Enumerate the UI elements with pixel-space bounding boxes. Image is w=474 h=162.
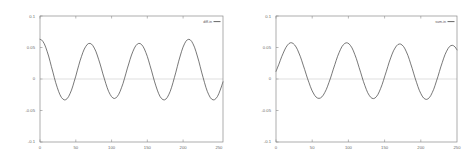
y-tick-label: 0 <box>33 76 36 81</box>
y-tick-label: -0.1 <box>28 139 36 144</box>
x-tick-label: 0 <box>39 145 42 150</box>
y-tick-label: 0.1 <box>265 14 271 19</box>
chart-svg-right: 0.1 0.05 0 -0.05 -0.1 0 50 100 150 200 2… <box>237 0 474 162</box>
data-curve <box>276 43 457 100</box>
x-tick-label: 100 <box>108 145 116 150</box>
data-curve <box>40 39 223 100</box>
chart-panel-right: 0.1 0.05 0 -0.05 -0.1 0 50 100 150 200 2… <box>237 0 474 162</box>
legend-label: diff-in <box>203 20 212 24</box>
x-tick-label: 150 <box>381 145 389 150</box>
y-tick-label: -0.05 <box>25 108 35 113</box>
x-tick-label: 250 <box>215 145 223 150</box>
x-tick-label: 250 <box>454 145 462 150</box>
y-axis-tick-labels-left: 0.1 0.05 0 -0.05 -0.1 <box>25 14 35 145</box>
x-tick-label: 50 <box>73 145 78 150</box>
x-tick-label: 150 <box>144 145 152 150</box>
x-tick-label: 200 <box>180 145 188 150</box>
y-tick-label: 0.05 <box>263 45 272 50</box>
x-tick-label: 200 <box>417 145 425 150</box>
y-tick-label: -0.1 <box>264 139 272 144</box>
y-axis-tick-labels-right: 0.1 0.05 0 -0.05 -0.1 <box>261 14 271 145</box>
chart-panel-left: 0.1 0.05 0 -0.05 -0.1 0 50 100 150 200 2… <box>0 0 237 162</box>
x-tick-label: 50 <box>310 145 315 150</box>
chart-svg-left: 0.1 0.05 0 -0.05 -0.1 0 50 100 150 200 2… <box>0 0 237 162</box>
y-tick-label: 0.05 <box>27 45 36 50</box>
y-tick-label: 0 <box>269 76 272 81</box>
x-axis-tick-labels-right: 0 50 100 150 200 250 <box>275 145 461 150</box>
y-tick-label: -0.05 <box>261 108 271 113</box>
y-tick-label: 0.1 <box>29 14 35 19</box>
legend-left: diff-in <box>191 19 221 25</box>
legend-right: sum-in <box>425 19 455 25</box>
x-axis-tick-labels-left: 0 50 100 150 200 250 <box>39 145 223 150</box>
x-tick-label: 0 <box>275 145 278 150</box>
legend-label: sum-in <box>435 20 446 24</box>
two-panel-line-chart-figure: 0.1 0.05 0 -0.05 -0.1 0 50 100 150 200 2… <box>0 0 474 162</box>
x-tick-label: 100 <box>345 145 353 150</box>
